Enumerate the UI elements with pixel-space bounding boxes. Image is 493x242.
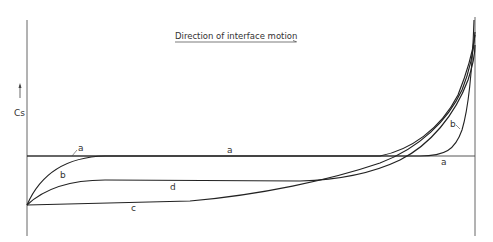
label-a-mid: a: [227, 145, 233, 155]
label-c: c: [131, 203, 136, 213]
diagram-canvas: Cs Direction of interface motion a b a d…: [0, 0, 493, 242]
arrow-head-icon: [19, 83, 22, 88]
label-a-right: a: [441, 157, 447, 167]
leader-a-left: [72, 150, 77, 156]
label-b-right: b: [450, 119, 456, 129]
label-b-left: b: [60, 170, 66, 180]
curve-c: [27, 32, 475, 205]
leader-b-right: [456, 125, 460, 129]
curve-d: [27, 45, 475, 205]
label-d: d: [170, 182, 176, 192]
y-axis-label: Cs: [14, 108, 25, 118]
curve-b: [27, 35, 475, 205]
diagram-title: Direction of interface motion: [175, 31, 297, 41]
label-a-left: a: [78, 143, 84, 153]
